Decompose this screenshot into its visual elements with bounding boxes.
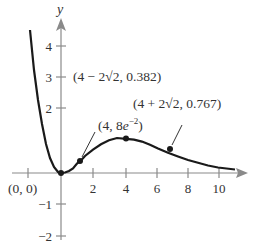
label-maximum-main: (4, 8 bbox=[98, 118, 123, 133]
x-tick-label-2: 2 bbox=[90, 181, 97, 196]
x-tick-label-4: 4 bbox=[123, 181, 130, 196]
x-tick-label-6: 6 bbox=[154, 181, 161, 196]
label-origin: (0, 0) bbox=[8, 181, 37, 196]
label-maximum: (4, 8e−2) bbox=[98, 116, 143, 133]
leader-line-inflection-2 bbox=[172, 125, 182, 145]
chart: 2 4 6 8 10 4 3 2 −1 −2 y (0, 0) (4 − 2√2… bbox=[0, 0, 255, 245]
y-tick-label-4: 4 bbox=[46, 39, 53, 54]
y-tick-label-3: 3 bbox=[46, 70, 53, 85]
label-maximum-close: ) bbox=[138, 118, 143, 133]
x-tick-label-10: 10 bbox=[213, 181, 226, 196]
y-tick-label-2: 2 bbox=[46, 101, 53, 116]
label-maximum-exp: −2 bbox=[129, 116, 139, 126]
point-inflection-1 bbox=[77, 158, 83, 164]
label-inflection-1: (4 − 2√2, 0.382) bbox=[73, 69, 161, 84]
y-tick-label-neg1: −1 bbox=[38, 197, 52, 212]
x-tick-label-8: 8 bbox=[185, 181, 192, 196]
y-axis-title: y bbox=[55, 2, 64, 17]
y-tick-label-neg2: −2 bbox=[38, 229, 52, 244]
label-inflection-2: (4 + 2√2, 0.767) bbox=[133, 96, 221, 111]
point-inflection-2 bbox=[167, 146, 173, 152]
point-maximum bbox=[123, 136, 129, 142]
point-origin bbox=[58, 170, 64, 176]
